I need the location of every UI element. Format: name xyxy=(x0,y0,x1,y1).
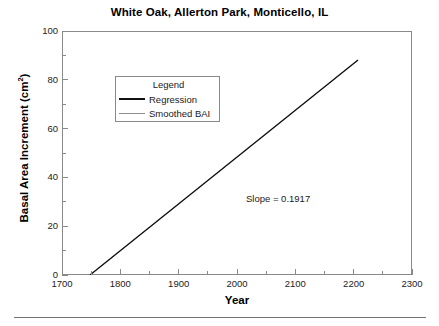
legend-title: Legend xyxy=(116,79,221,90)
legend: Legend Regression Smoothed BAI xyxy=(115,76,220,122)
chart-figure: White Oak, Allerton Park, Monticello, IL xyxy=(0,0,439,326)
x-tick-label: 1800 xyxy=(96,278,144,289)
slope-annotation: Slope = 0.1917 xyxy=(246,193,310,204)
x-tick-label: 2100 xyxy=(271,278,319,289)
legend-line-swatch-regression xyxy=(119,94,145,104)
legend-item-smoothed-bai: Smoothed BAI xyxy=(119,106,219,120)
legend-line-swatch-smoothed-bai xyxy=(119,108,145,118)
y-axis-title: Basal Area Increment (cm2) xyxy=(18,28,30,268)
x-tick-label: 2000 xyxy=(213,278,261,289)
x-axis-title: Year xyxy=(62,294,412,306)
y-axis-title-superscript: 2 xyxy=(16,77,25,81)
y-axis-title-tail: ) xyxy=(18,74,30,78)
footer-divider xyxy=(14,317,426,318)
legend-label-regression: Regression xyxy=(145,94,197,105)
x-tick-label: 1700 xyxy=(38,278,86,289)
plot-data-layer xyxy=(62,31,412,275)
chart-title: White Oak, Allerton Park, Monticello, IL xyxy=(0,6,439,18)
x-tick-label: 2200 xyxy=(330,278,378,289)
legend-item-regression: Regression xyxy=(119,92,219,106)
x-axis-tick-labels: 1700 1800 1900 2000 2100 2200 2300 xyxy=(0,278,439,292)
x-tick-label: 2300 xyxy=(388,278,436,289)
x-tick-label: 1900 xyxy=(155,278,203,289)
y-axis-title-text: Basal Area Increment (cm xyxy=(18,82,30,223)
legend-label-smoothed-bai: Smoothed BAI xyxy=(145,108,210,119)
